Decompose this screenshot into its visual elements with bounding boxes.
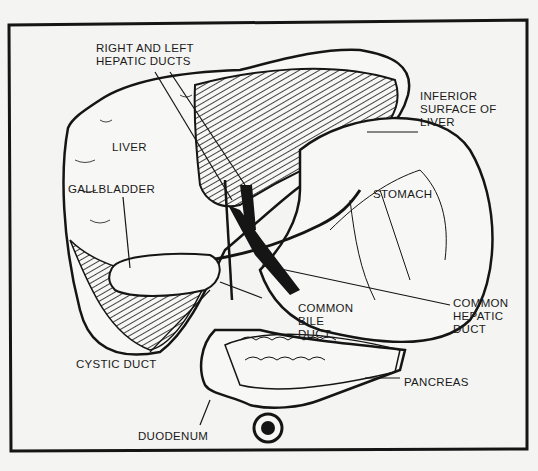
anatomy-diagram: RIGHT AND LEFT HEPATIC DUCTS INFERIOR SU…	[0, 0, 538, 471]
label-line: RIGHT AND LEFT	[96, 42, 194, 55]
label-cystic-duct: CYSTIC DUCT	[76, 358, 157, 371]
duodenum-pancreas-shape	[201, 330, 405, 442]
label-line: DUCT	[453, 323, 508, 336]
label-hepatic-ducts: RIGHT AND LEFT HEPATIC DUCTS	[96, 42, 194, 68]
label-pancreas: PANCREAS	[404, 376, 469, 389]
label-line: BILE	[298, 315, 353, 328]
label-line: COMMON	[453, 297, 508, 310]
label-common-hepatic-duct: COMMON HEPATIC DUCT	[453, 297, 508, 336]
label-stomach: STOMACH	[373, 188, 432, 201]
label-line: INFERIOR	[420, 90, 496, 103]
label-line: HEPATIC DUCTS	[96, 55, 194, 68]
label-common-bile-duct: COMMON BILE DUCT	[298, 302, 353, 341]
label-line: LIVER	[420, 116, 496, 129]
label-line: DUCT	[298, 328, 353, 341]
illustration	[0, 0, 538, 471]
label-line: HEPATIC	[453, 310, 508, 323]
label-line: SURFACE OF	[420, 103, 496, 116]
gallbladder-shape	[109, 254, 219, 296]
label-duodenum: DUODENUM	[138, 430, 208, 443]
label-liver: LIVER	[112, 141, 147, 154]
label-inferior-surface: INFERIOR SURFACE OF LIVER	[420, 90, 496, 129]
label-line: COMMON	[298, 302, 353, 315]
label-gallbladder: GALLBLADDER	[68, 183, 155, 196]
